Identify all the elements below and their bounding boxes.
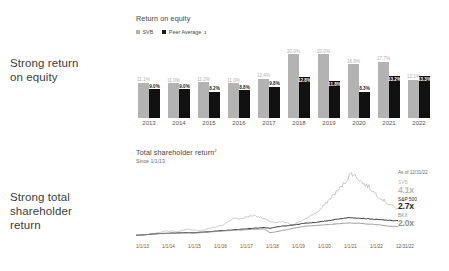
bar-value-label: 11.2% [197,77,210,82]
roe-chart-title: Return on equity [136,14,438,23]
bar-value-label: 9.8% [269,81,279,86]
legend-item-svb: SVB [136,29,153,35]
axis-year-2018: 2018 [286,120,312,126]
axis-date-12-31-22: 12/31/22 [396,244,414,249]
bar-svb-2014: 11.0% [168,83,179,118]
axis-date-1-1-14: 1/1/14 [162,244,175,249]
tsr-legend-value-svb: 4.1x [398,186,449,195]
bar-value-label: 17.7% [377,56,390,61]
bar-group: 12.4%9.8% [256,48,282,118]
axis-date-1-1-17: 1/1/17 [240,244,253,249]
bar-peer-average-2016: 8.8% [239,90,250,118]
bar-value-label: 20.0% [287,49,300,54]
bar-value-label: 11.1% [137,77,150,82]
bar-peer-average-2022: 13.3% [419,76,430,118]
bar-svb-2017: 12.4% [258,79,269,119]
legend-item-peer-average: Peer Average1 [162,29,206,35]
bar-group: 11.2%8.2% [196,48,222,118]
axis-year-2013: 2013 [136,120,162,126]
legend-label-svb: SVB [143,29,154,35]
axis-year-2016: 2016 [226,120,252,126]
tsr-chart-title: Total shareholder return2 [136,148,438,157]
bar-peer-average-2020: 8.3% [359,92,370,118]
bar-value-label: 12.8% [298,78,311,83]
tsr-legend-value-s-p-500: 2.7x [398,202,449,211]
tsr-lines [136,166,398,244]
bar-value-label: 11.8% [328,82,341,87]
bar-value-label: 9.0% [179,84,189,89]
axis-date-1-1-15: 1/1/15 [188,244,201,249]
bar-svb-2022: 12.1% [408,80,419,119]
axis-date-1-1-18: 1/1/18 [266,244,279,249]
axis-year-2015: 2015 [196,120,222,126]
tsr-line-svb [136,173,398,236]
tsr-legend-row-svb: SVB4.1x [398,180,449,195]
bar-group: 16.9%8.3% [346,48,372,118]
tsr-as-of-label: As of 12/31/22 [398,170,449,175]
bar-value-label: 20.0% [317,49,330,54]
axis-year-2019: 2019 [316,120,342,126]
legend-swatch-svb [136,30,140,34]
tsr-chart-title-text: Total shareholder return [136,148,214,157]
tsr-legend: As of 12/31/22 SVB4.1xS&P 5002.7xBKX2.0x [398,170,449,230]
bar-svb-2013: 11.1% [138,83,149,118]
bar-group: 11.0%9.0% [166,48,192,118]
tsr-legend-value-bkx: 2.0x [398,219,449,228]
axis-year-2017: 2017 [256,120,282,126]
roe-legend: SVB Peer Average1 [136,29,438,35]
tsr-line-s-p-500 [136,218,398,236]
bar-peer-average-2018: 12.8% [299,77,310,118]
bar-svb-2016: 11.0% [228,83,239,118]
bar-svb-2020: 16.9% [348,64,359,118]
legend-label-peer-average: Peer Average [169,29,202,35]
tsr-footnote-marker: 2 [214,148,216,153]
bar-value-label: 11.0% [227,78,240,83]
bar-value-label: 12.4% [257,73,270,78]
bar-svb-2021: 17.7% [378,62,389,118]
roe-bars: 11.1%9.0%11.0%9.0%11.2%8.2%11.0%8.8%12.4… [136,48,432,118]
axis-date-1-1-20: 1/1/20 [318,244,331,249]
bar-peer-average-2015: 8.2% [209,92,220,118]
roe-x-axis: 2013201420152016201720182019202020212022 [136,120,432,126]
bar-group: 11.0%8.8% [226,48,252,118]
bar-value-label: 11.0% [167,78,180,83]
bar-peer-average-2021: 13.2% [389,76,400,118]
axis-date-1-1-16: 1/1/16 [214,244,227,249]
slide: Strong return on equity Strong total sha… [0,0,449,271]
bar-group: 12.1%13.3% [406,48,432,118]
bar-group: 20.0%12.8% [286,48,312,118]
axis-year-2014: 2014 [166,120,192,126]
bar-group: 11.1%9.0% [136,48,162,118]
bar-value-label: 8.8% [239,85,249,90]
axis-date-1-1-19: 1/1/19 [292,244,305,249]
bar-value-label: 8.2% [209,86,219,91]
return-on-equity-chart: Return on equity SVB Peer Average1 11.1%… [136,14,438,134]
bar-value-label: 16.9% [347,59,360,64]
tsr-legend-row-s-p-500: S&P 5002.7x [398,197,449,212]
bar-value-label: 13.3% [418,77,431,82]
axis-date-1-1-13: 1/1/13 [136,244,149,249]
bar-peer-average-2017: 9.8% [269,87,280,118]
bar-peer-average-2013: 9.0% [149,89,160,118]
axis-date-1-1-22: 1/1/22 [370,244,383,249]
tsr-legend-row-bkx: BKX2.0x [398,213,449,228]
bar-peer-average-2014: 9.0% [179,89,190,118]
bar-value-label: 9.0% [149,84,159,89]
axis-year-2020: 2020 [346,120,372,126]
legend-footnote-marker: 1 [204,30,206,35]
bar-group: 20.0%11.8% [316,48,342,118]
axis-year-2021: 2021 [376,120,402,126]
bar-svb-2018: 20.0% [288,54,299,118]
total-shareholder-return-chart: Total shareholder return2 Since 1/1/13 1… [136,148,438,260]
headline-return-on-equity: Strong return on equity [10,56,128,84]
tsr-chart-subtitle: Since 1/1/13 [136,158,438,164]
bar-peer-average-2019: 11.8% [329,81,340,119]
axis-year-2022: 2022 [406,120,432,126]
axis-date-1-1-21: 1/1/21 [344,244,357,249]
tsr-line-bkx [136,223,398,236]
bar-value-label: 13.2% [388,77,401,82]
bar-group: 17.7%13.2% [376,48,402,118]
bar-svb-2015: 11.2% [198,82,209,118]
bar-value-label: 8.3% [359,86,369,91]
headline-total-shareholder-return: Strong total shareholder return [10,190,128,232]
